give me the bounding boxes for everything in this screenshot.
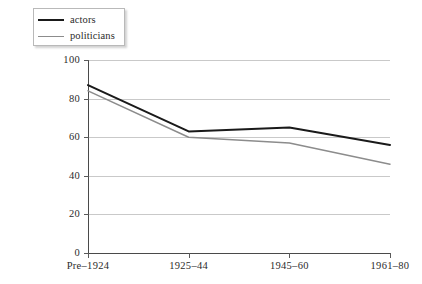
series-line-politicians: [88, 91, 390, 164]
series-line-actors: [88, 85, 390, 145]
data-series-group: [0, 0, 422, 284]
line-chart: actors politicians 020406080100 Pre–1924…: [0, 0, 422, 284]
